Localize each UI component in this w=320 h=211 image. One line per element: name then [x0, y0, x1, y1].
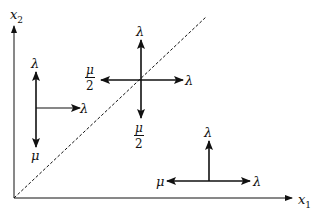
left-cross — [36, 72, 80, 147]
center-left-fraction: μ2 — [85, 64, 95, 92]
bottom-right-left-label: μ — [156, 175, 164, 188]
center-right-label: λ — [185, 74, 193, 87]
bottom-right-right-label: λ — [253, 175, 261, 188]
center-down-fraction: μ2 — [134, 122, 144, 150]
diagram-canvas: x2 x1 λ μ λ λ λ μ2 μ2 λ μ λ — [0, 0, 320, 211]
left-right-label: λ — [80, 102, 88, 115]
center-up-label: λ — [136, 25, 144, 38]
left-up-label: λ — [31, 57, 39, 70]
y-axis-label: x2 — [10, 8, 23, 25]
x-axis-label: x1 — [298, 193, 311, 210]
center-cross — [101, 40, 183, 118]
bottom-right-cross — [167, 141, 250, 181]
bottom-right-up-label: λ — [204, 126, 212, 139]
left-down-label: μ — [31, 149, 39, 162]
